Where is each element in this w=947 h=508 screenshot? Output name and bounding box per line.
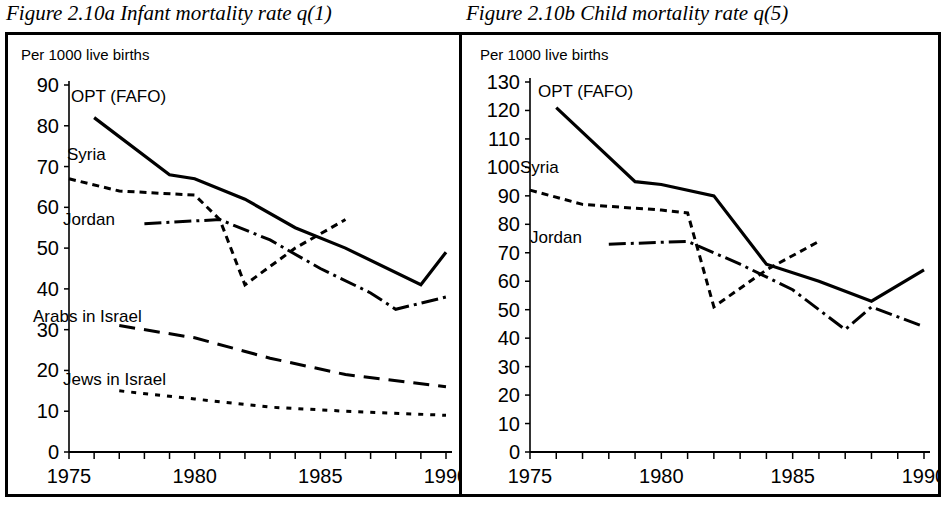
series-label-opt: OPT (FAFO) (71, 87, 166, 107)
series-line-jordan (609, 241, 924, 329)
y-tick-label: 60 (37, 196, 59, 218)
series-label-jordan: Jordan (530, 228, 582, 248)
series-label-jews: Jews in Israel (63, 370, 166, 390)
x-tick-label: 1985 (298, 465, 343, 487)
x-tick-label: 1980 (639, 465, 684, 487)
chart-svg: 0102030405060708090100110120130197519801… (462, 32, 941, 497)
y-tick-label: 100 (487, 156, 520, 178)
x-tick-label: 1990 (424, 465, 461, 487)
y-tick-label: 20 (37, 359, 59, 381)
series-label-arabs: Arabs in Israel (33, 307, 142, 327)
series-line-arabs-in-israel (119, 326, 446, 387)
y-tick-label: 130 (487, 71, 520, 93)
y-tick-label: 110 (488, 128, 520, 150)
x-tick-label: 1975 (47, 465, 92, 487)
y-tick-label: 40 (37, 278, 59, 300)
figure-a-title: Figure 2.10a Infant mortality rate q(1) (6, 1, 332, 26)
y-tick-label: 90 (498, 185, 520, 207)
y-tick-label: 10 (498, 413, 520, 435)
series-label-opt: OPT (FAFO) (538, 82, 633, 102)
y-tick-label: 80 (498, 213, 520, 235)
series-line-jordan (144, 220, 446, 310)
y-tick-label: 20 (498, 384, 520, 406)
series-line-opt-fafo (94, 118, 446, 285)
figure-titles-row: Figure 2.10a Infant mortality rate q(1) … (0, 0, 947, 30)
plot-area-b: 0102030405060708090100110120130197519801… (462, 32, 941, 497)
x-tick-label: 1985 (770, 465, 815, 487)
y-tick-label: 70 (498, 242, 520, 264)
series-label-jordan: Jordan (63, 210, 115, 230)
y-tick-label: 0 (509, 441, 520, 463)
y-tick-label: 0 (48, 441, 59, 463)
series-line-opt-fafo (556, 108, 924, 302)
series-label-syria: Syria (67, 145, 106, 165)
series-label-syria: Syria (520, 158, 559, 178)
y-tick-label: 40 (498, 327, 520, 349)
y-tick-label: 120 (487, 99, 520, 121)
panel-child-mortality: Per 1000 live births 0102030405060708090… (462, 32, 941, 497)
y-tick-label: 80 (37, 115, 59, 137)
y-tick-label: 30 (498, 356, 520, 378)
series-line-syria (530, 190, 819, 307)
y-tick-label: 60 (498, 270, 520, 292)
y-tick-label: 70 (37, 156, 59, 178)
y-tick-label: 10 (37, 400, 59, 422)
y-tick-label: 50 (498, 299, 520, 321)
x-tick-label: 1980 (172, 465, 217, 487)
x-tick-label: 1975 (508, 465, 553, 487)
figure-b-title: Figure 2.10b Child mortality rate q(5) (466, 1, 788, 26)
series-line-jews-in-israel (119, 391, 446, 415)
x-tick-label: 1990 (902, 465, 941, 487)
y-tick-label: 90 (37, 74, 59, 96)
panel-infant-mortality: Per 1000 live births 0102030405060708090… (5, 32, 461, 497)
y-tick-label: 50 (37, 237, 59, 259)
